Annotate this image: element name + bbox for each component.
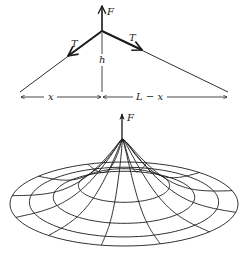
membrane-mesh — [10, 139, 238, 246]
tension-arrow-right — [102, 31, 142, 50]
x-label: x — [48, 91, 54, 102]
height-label: h — [99, 54, 105, 65]
membrane-force-label: F — [126, 112, 135, 123]
membrane-ring — [10, 162, 238, 246]
string-tension-diagram: F T T h x L − x — [20, 6, 228, 102]
figure-canvas: F T T h x L − x F — [0, 0, 247, 259]
membrane-spoke — [39, 139, 123, 180]
force-label: F — [106, 6, 115, 17]
tension-left-label: T — [71, 38, 79, 49]
membrane-spoke — [16, 139, 122, 217]
membrane-diagram: F — [10, 112, 238, 246]
tension-right-label: T — [129, 32, 137, 43]
membrane-spoke — [122, 139, 232, 191]
membrane-spoke — [101, 140, 122, 246]
l-minus-x-label: L − x — [135, 91, 163, 102]
